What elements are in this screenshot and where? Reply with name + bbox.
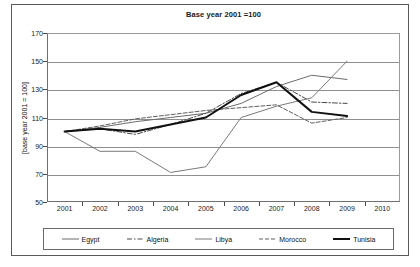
legend-swatch-egypt-icon <box>62 235 79 243</box>
legend-label: Morocco <box>279 236 306 243</box>
series-line-egypt <box>65 75 347 131</box>
y-axis-tick-label: 170 <box>31 30 43 37</box>
legend-item-libya[interactable]: Libya <box>195 235 232 243</box>
x-axis-tick-label: 2005 <box>198 205 214 212</box>
legend-swatch-libya-icon <box>195 235 212 243</box>
x-axis-tick-mark <box>365 202 366 206</box>
legend-swatch-morocco-icon <box>259 235 276 243</box>
legend-item-tunisia[interactable]: Tunisia <box>333 235 375 243</box>
x-axis-tick-label: 2002 <box>92 205 108 212</box>
chart-title: Base year 2001 =100 <box>47 10 400 19</box>
y-axis-tick-label: 130 <box>31 86 43 93</box>
y-axis-tick-mark <box>43 146 47 147</box>
y-axis-tick-mark <box>43 202 47 203</box>
x-axis-tick-mark <box>118 202 119 206</box>
series-lines-layer <box>47 33 400 202</box>
x-axis-tick-mark <box>224 202 225 206</box>
y-axis-tick-label: 50 <box>35 199 43 206</box>
y-axis-tick-label: 110 <box>32 114 43 121</box>
figure-container: Base year 2001 =100 [base year 2001 = 10… <box>0 0 420 267</box>
x-axis-tick-label: 2007 <box>269 205 285 212</box>
legend-item-egypt[interactable]: Egypt <box>62 235 100 243</box>
legend-swatch-tunisia-icon <box>333 235 350 243</box>
x-axis-tick-label: 2010 <box>375 205 391 212</box>
x-axis-tick-mark <box>294 202 295 206</box>
x-axis-tick-mark <box>259 202 260 206</box>
legend-item-morocco[interactable]: Morocco <box>259 235 306 243</box>
plot-wrapper <box>47 33 400 202</box>
x-axis-tick-label: 2001 <box>57 205 73 212</box>
y-axis-tick-label: 150 <box>31 58 43 65</box>
x-axis-tick-label: 2008 <box>304 205 320 212</box>
x-axis-tick-label: 2006 <box>233 205 249 212</box>
y-axis-tick-mark <box>43 33 47 34</box>
x-axis-tick-mark <box>153 202 154 206</box>
x-axis-tick-mark <box>329 202 330 206</box>
y-axis-tick-mark <box>43 118 47 119</box>
y-axis-tick-labels: 507090110130150170 <box>16 33 43 202</box>
y-axis-tick-label: 70 <box>35 170 43 177</box>
x-axis-tick-mark <box>188 202 189 206</box>
y-axis-tick-label: 90 <box>35 142 43 149</box>
x-axis-tick-label: 2003 <box>127 205 143 212</box>
legend-label: Libya <box>215 236 232 243</box>
chart-legend: EgyptAlgeriaLibyaMoroccoTunisia <box>43 228 394 250</box>
legend-label: Egypt <box>82 236 100 243</box>
y-axis-tick-mark <box>43 174 47 175</box>
y-axis-tick-mark <box>43 89 47 90</box>
legend-label: Algeria <box>147 236 169 243</box>
x-axis-tick-label: 2009 <box>339 205 355 212</box>
x-axis-tick-mark <box>82 202 83 206</box>
y-axis-tick-mark <box>43 61 47 62</box>
legend-swatch-algeria-icon <box>127 235 144 243</box>
legend-label: Tunisia <box>353 236 375 243</box>
x-axis-tick-labels: 2001200220032004200520062007200820092010 <box>47 205 400 217</box>
legend-item-algeria[interactable]: Algeria <box>127 235 169 243</box>
x-axis-tick-label: 2004 <box>163 205 179 212</box>
